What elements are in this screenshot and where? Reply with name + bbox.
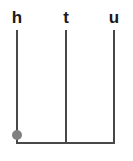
rod-group <box>17 30 114 144</box>
bead-hundreds-1[interactable] <box>12 130 22 140</box>
column-label-tens: t <box>63 8 69 27</box>
abacus-figure: h t u <box>0 0 133 161</box>
abacus-diagram: h t u <box>0 0 133 161</box>
column-label-units: u <box>109 8 119 27</box>
column-label-hundreds: h <box>12 8 22 27</box>
column-label-group: h t u <box>12 8 119 27</box>
bead-group <box>12 130 22 140</box>
